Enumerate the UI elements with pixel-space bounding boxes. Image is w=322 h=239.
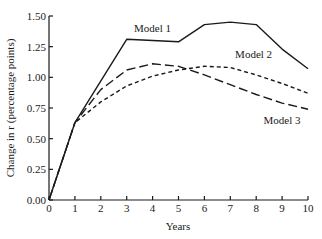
x-axis-title: Years [166, 220, 191, 232]
model-3-line [49, 64, 308, 200]
y-axis: 0.000.250.500.751.001.251.50 [27, 10, 53, 206]
x-tick-label: 0 [46, 202, 52, 214]
series-labels: Model 1Model 2Model 3 [134, 22, 301, 126]
line-chart: 0.000.250.500.751.001.251.50 01234567891… [0, 0, 322, 239]
x-tick-label: 8 [253, 202, 259, 214]
x-tick-label: 3 [124, 202, 130, 214]
x-tick-label: 5 [176, 202, 182, 214]
model-3-label: Model 3 [264, 114, 301, 126]
x-tick-label: 1 [72, 202, 78, 214]
y-tick-label: 1.00 [27, 71, 47, 83]
model-1-label: Model 1 [134, 22, 171, 34]
x-tick-label: 9 [279, 202, 285, 214]
y-tick-label: 0.25 [27, 163, 47, 175]
x-tick-label: 7 [228, 202, 234, 214]
y-tick-label: 0.00 [27, 194, 47, 206]
y-tick-label: 1.25 [27, 41, 47, 53]
y-tick-label: 0.50 [27, 133, 47, 145]
y-tick-label: 1.50 [27, 10, 47, 22]
x-tick-label: 10 [303, 202, 315, 214]
model-2-line [49, 66, 308, 200]
x-tick-label: 4 [150, 202, 156, 214]
y-tick-label: 0.75 [27, 102, 47, 114]
model-2-label: Model 2 [235, 48, 272, 60]
x-tick-label: 6 [202, 202, 208, 214]
y-axis-title: Change in r (percentage points) [4, 38, 17, 177]
x-axis: 012345678910 [46, 196, 314, 214]
x-tick-label: 2 [98, 202, 104, 214]
